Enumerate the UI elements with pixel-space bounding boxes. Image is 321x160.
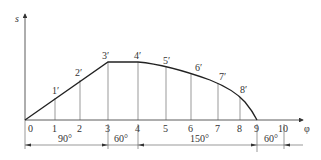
point-label-8: 8′ — [240, 84, 247, 95]
point-label-2: 2′ — [75, 67, 82, 78]
point-label-6: 6′ — [195, 62, 202, 73]
ordinate-lines — [55, 62, 240, 120]
point-label-1: 1′ — [52, 85, 59, 96]
tick-4: 4 — [135, 123, 140, 134]
point-label-7: 7′ — [219, 71, 226, 82]
point-label-5: 5′ — [163, 55, 170, 66]
y-axis-label: s — [15, 13, 19, 24]
segment-label-dwell-far: 60° — [114, 133, 128, 144]
x-axis-label: φ — [304, 123, 310, 134]
tick-10: 10 — [278, 123, 288, 134]
tick-0: 0 — [28, 123, 33, 134]
tick-9: 9 — [254, 123, 259, 134]
tick-7: 7 — [215, 123, 220, 134]
tick-3: 3 — [105, 123, 110, 134]
point-label-4: 4′ — [134, 50, 141, 61]
displacement-diagram: s φ 1′ 2′ 3′ 4′ 5′ 6′ 7′ 8′ 0 1 2 3 4 5 … — [0, 0, 321, 160]
tick-5: 5 — [163, 123, 168, 134]
tick-1: 1 — [52, 123, 57, 134]
segment-label-dwell-near: 60° — [264, 133, 278, 144]
segment-label-rise: 90° — [58, 133, 72, 144]
segment-label-return: 150° — [190, 133, 209, 144]
tick-2: 2 — [77, 123, 82, 134]
point-label-3: 3′ — [102, 50, 109, 61]
tick-8: 8 — [237, 123, 242, 134]
